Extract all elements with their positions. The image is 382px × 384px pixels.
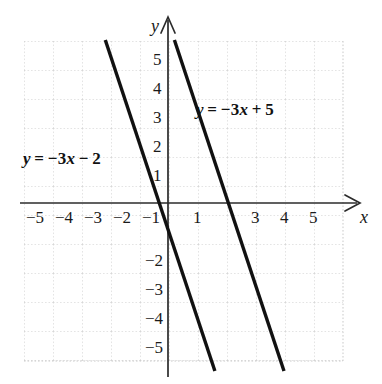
y-tick-label-neg4: −4: [145, 310, 163, 327]
x-tick-label-1: 1: [193, 209, 202, 226]
x-tick-label-3: 3: [251, 209, 260, 226]
y-tick-label-neg5: −5: [145, 339, 163, 356]
x-tick-label-neg2: −2: [113, 209, 131, 226]
x-tick-label-neg4: −4: [55, 209, 73, 226]
x-tick-label-neg1: −1: [142, 209, 160, 226]
y-tick-label-neg3: −3: [145, 281, 163, 298]
x-tick-label-neg5: −5: [26, 209, 44, 226]
equation-label-line2-x: x: [66, 149, 75, 168]
x-tick-label-5: 5: [309, 209, 318, 226]
y-tick-label-5: 5: [153, 51, 162, 68]
equation-label-line2-y: y: [23, 149, 31, 168]
x-axis-name: x: [360, 208, 368, 226]
equation-label-line1-y: y: [196, 100, 204, 119]
equation-label-line2-equals: =: [34, 149, 44, 168]
equation-label-line1-x: x: [239, 100, 248, 119]
y-tick-label-4: 4: [153, 80, 162, 97]
y-tick-label-1: 1: [153, 167, 162, 184]
equation-label-line2-constant: 2: [92, 149, 101, 168]
y-axis-name: y: [151, 17, 159, 35]
x-tick-label-4: 4: [280, 209, 289, 226]
y-tick-label-3: 3: [153, 109, 162, 126]
grid-lines: [24, 41, 343, 361]
x-tick-label-neg3: −3: [84, 209, 102, 226]
coordinate-plane-svg: [0, 0, 382, 384]
y-tick-label-2: 2: [153, 138, 162, 155]
equation-label-line2: y = −3x − 2: [23, 150, 101, 167]
equation-label-line1-constant: 5: [265, 100, 274, 119]
equation-label-line1-equals: =: [207, 100, 217, 119]
y-tick-label-neg2: −2: [145, 252, 163, 269]
equation-label-line1-operator: +: [252, 100, 262, 119]
equation-label-line1: y = −3x + 5: [196, 101, 274, 118]
graph-figure: −5 −4 −3 −2 −1 1 3 4 5 5 4 3 2 1 −2 −3 −…: [0, 0, 382, 384]
equation-label-line2-coefficient: −3: [48, 149, 67, 168]
equation-label-line1-coefficient: −3: [221, 100, 240, 119]
equation-label-line2-operator: −: [79, 149, 89, 168]
